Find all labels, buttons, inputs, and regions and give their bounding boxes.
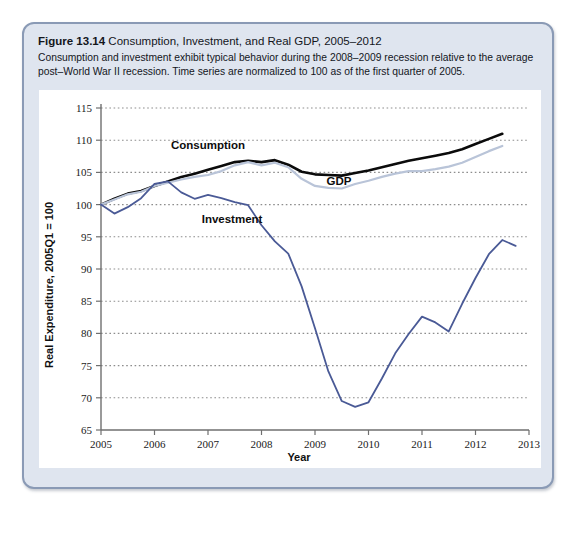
y-axis-ticks: 65707580859095100105110115	[76, 102, 102, 436]
line-chart: 200520062007200820092010201120122013 657…	[39, 90, 541, 468]
y-tick-label: 90	[81, 263, 93, 275]
x-tick-label: 2006	[144, 438, 167, 450]
gridlines	[101, 108, 529, 398]
series-label-gdp: GDP	[327, 175, 352, 187]
y-tick-label: 75	[81, 360, 93, 372]
series-line-consumption	[101, 134, 502, 205]
figure-header: Figure 13.14 Consumption, Investment, an…	[24, 24, 552, 85]
figure-title: Figure 13.14 Consumption, Investment, an…	[38, 34, 538, 48]
chart-axes	[101, 104, 529, 430]
x-tick-label: 2007	[197, 438, 220, 450]
chart-plot-panel: 200520062007200820092010201120122013 657…	[39, 90, 541, 468]
y-tick-label: 100	[76, 199, 93, 211]
x-tick-label: 2005	[90, 438, 113, 450]
y-tick-label: 85	[81, 295, 93, 307]
x-tick-label: 2008	[251, 438, 274, 450]
figure-title-text: Consumption, Investment, and Real GDP, 2…	[108, 35, 381, 47]
y-tick-label: 110	[76, 134, 93, 146]
series-label-investment: Investment	[202, 213, 263, 225]
y-axis-title: Real Expenditure, 2005Q1 = 100	[43, 202, 55, 368]
y-tick-label: 80	[81, 327, 93, 339]
x-tick-label: 2012	[465, 438, 487, 450]
figure-caption: Consumption and investment exhibit typic…	[38, 51, 538, 78]
y-tick-label: 115	[76, 102, 93, 114]
x-tick-label: 2013	[518, 438, 541, 450]
series-label-consumption: Consumption	[171, 139, 245, 151]
x-tick-label: 2009	[304, 438, 327, 450]
y-tick-label: 70	[81, 392, 93, 404]
figure-card: Figure 13.14 Consumption, Investment, an…	[22, 22, 554, 489]
y-tick-label: 65	[81, 424, 93, 436]
y-tick-label: 95	[81, 231, 93, 243]
y-tick-label: 105	[76, 166, 93, 178]
x-axis-ticks: 200520062007200820092010201120122013	[90, 430, 541, 450]
series-line-investment	[101, 181, 516, 406]
x-tick-label: 2011	[411, 438, 433, 450]
figure-number-label: Figure 13.14	[38, 35, 105, 47]
x-axis-title: Year	[287, 451, 311, 463]
x-tick-label: 2010	[358, 438, 381, 450]
series-annotations: ConsumptionGDPInvestment	[171, 139, 352, 225]
